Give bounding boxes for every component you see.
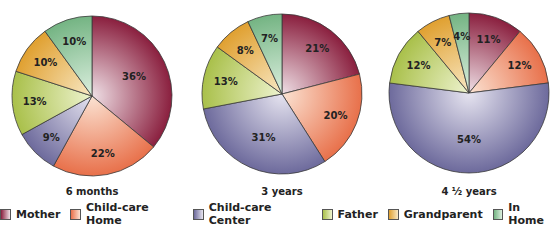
slice-value-label: 13% [23, 96, 47, 107]
legend-swatch [388, 209, 399, 220]
legend-label: Mother [16, 208, 60, 221]
slice-value-label: 31% [252, 132, 276, 143]
slice-value-label: 13% [214, 76, 238, 87]
slice-value-label: 9% [43, 132, 60, 143]
pie-chart-3: 11%12%54%12%7%4% [389, 13, 549, 173]
legend-item-child-care-home: Child-care Home [70, 201, 183, 227]
legend: MotherChild-care HomeChild-care CenterFa… [0, 203, 557, 225]
pie-caption: 4 ½ years [409, 186, 529, 197]
legend-swatch [322, 209, 333, 220]
slice-value-label: 20% [324, 110, 348, 121]
legend-label: Child-care Home [86, 201, 183, 227]
legend-swatch [193, 209, 204, 220]
pie-chart-2: 21%20%31%13%8%7% [202, 14, 362, 174]
legend-item-child-care-center: Child-care Center [193, 201, 311, 227]
pie-chart-1: 36%22%9%13%10%10% [12, 16, 172, 176]
slice-value-label: 21% [305, 43, 329, 54]
slice-value-label: 10% [62, 36, 86, 47]
slice-value-label: 11% [477, 34, 501, 45]
pie-caption: 6 months [32, 186, 152, 197]
legend-item-mother: Mother [0, 208, 60, 221]
legend-swatch [493, 209, 504, 220]
legend-item-grandparent: Grandparent [388, 208, 483, 221]
legend-label: Father [338, 208, 378, 221]
slice-value-label: 12% [407, 60, 431, 71]
legend-item-father: Father [322, 208, 378, 221]
slice-value-label: 10% [33, 57, 57, 68]
pie-charts: 36%22%9%13%10%10%21%20%31%13%8%7%11%12%5… [0, 0, 557, 200]
legend-item-in-home: In Home [493, 201, 557, 227]
legend-label: Child-care Center [209, 201, 312, 227]
slice-value-label: 36% [122, 71, 146, 82]
pie-slice-child-care-center [389, 83, 549, 173]
slice-value-label: 22% [91, 148, 115, 159]
slice-value-label: 7% [261, 33, 278, 44]
legend-label: In Home [508, 201, 557, 227]
slice-value-label: 54% [457, 134, 481, 145]
legend-swatch [70, 209, 81, 220]
slice-value-label: 12% [508, 60, 532, 71]
slice-value-label: 8% [237, 45, 254, 56]
pie-caption: 3 years [222, 186, 342, 197]
slice-value-label: 4% [453, 31, 470, 42]
slice-value-label: 7% [434, 37, 451, 48]
legend-label: Grandparent [404, 208, 483, 221]
legend-swatch [0, 209, 11, 220]
